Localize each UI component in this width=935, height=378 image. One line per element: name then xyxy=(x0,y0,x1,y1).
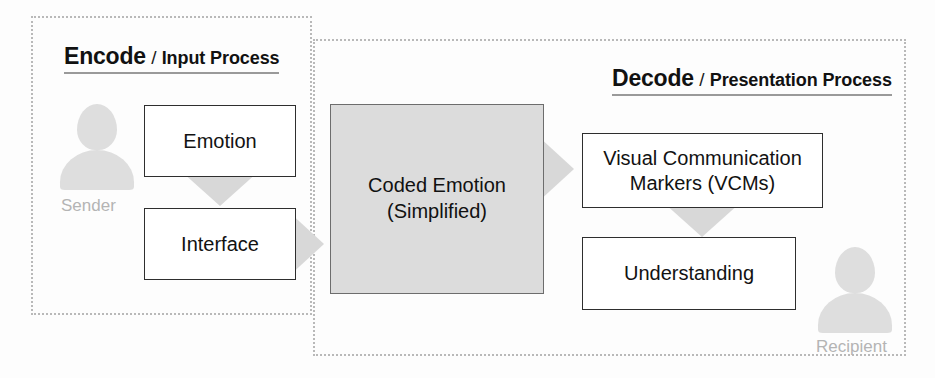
node-interface-label: Interface xyxy=(181,232,259,256)
diagram-canvas: Encode / Input Process Decode / Presenta… xyxy=(0,0,935,378)
sender-silhouette-icon xyxy=(60,104,134,190)
encode-heading-strong: Encode xyxy=(64,43,146,69)
encode-heading-separator: / xyxy=(146,47,162,68)
decode-heading: Decode / Presentation Process xyxy=(612,66,892,96)
arrow-down-vcm-to-understanding xyxy=(664,203,740,237)
node-coded-emotion-label-line2: (Simplified) xyxy=(387,200,487,222)
arrow-down-emotion-to-interface xyxy=(182,172,258,206)
recipient-label: Recipient xyxy=(816,337,887,357)
encode-heading-light: Input Process xyxy=(162,48,280,68)
node-understanding: Understanding xyxy=(582,237,796,310)
sender-label: Sender xyxy=(61,196,116,216)
decode-heading-strong: Decode xyxy=(612,65,694,91)
node-coded-emotion-text: Coded Emotion (Simplified) xyxy=(368,173,506,224)
node-coded-emotion: Coded Emotion (Simplified) xyxy=(330,104,544,294)
decode-heading-separator: / xyxy=(694,69,710,90)
node-understanding-label: Understanding xyxy=(624,261,754,285)
node-vcm-label-line1: Visual Communication xyxy=(603,147,802,169)
node-visual-communication-markers: Visual Communication Markers (VCMs) xyxy=(582,133,823,208)
sender-body-shape xyxy=(60,150,134,190)
node-emotion-label: Emotion xyxy=(183,129,256,153)
node-interface: Interface xyxy=(144,208,296,280)
decode-heading-light: Presentation Process xyxy=(710,70,892,90)
node-emotion: Emotion xyxy=(144,105,296,177)
node-vcm-text: Visual Communication Markers (VCMs) xyxy=(603,146,802,195)
sender-head-shape xyxy=(77,104,117,150)
node-vcm-label-line2: Markers (VCMs) xyxy=(630,172,776,194)
recipient-silhouette-icon xyxy=(818,247,892,333)
recipient-head-shape xyxy=(835,247,875,293)
node-coded-emotion-label-line1: Coded Emotion xyxy=(368,174,506,196)
recipient-body-shape xyxy=(818,293,892,333)
encode-heading: Encode / Input Process xyxy=(64,44,279,74)
